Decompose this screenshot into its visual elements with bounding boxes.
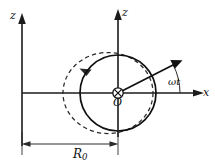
radius-dimension [22,132,119,155]
z-axis-left [18,13,26,146]
z-axis-left-label: z [10,10,16,21]
figure-container: z z x O ωt R0 [0,0,215,167]
radius-label-subscript: 0 [82,152,88,162]
radius-vector-arrowhead [170,60,182,69]
z-axis-left-arrowhead [18,13,26,24]
z-axis-center-label: z [122,7,128,18]
z-axis-center-arrowhead [114,9,122,20]
radius-label: R0 [73,148,88,162]
x-axis-label: x [203,87,209,98]
origin-label: O [113,97,122,108]
angle-label: ωt [168,77,180,87]
z-axis-center [114,9,122,137]
dimension-arrowhead-left [22,141,31,147]
radius-label-symbol: R [73,147,82,161]
dimension-arrowhead-right [110,141,119,147]
figure-canvas [0,0,215,167]
